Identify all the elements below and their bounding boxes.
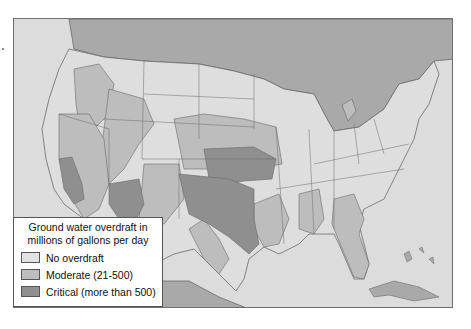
legend-label: Critical (more than 500) <box>46 286 156 298</box>
legend-item-no-overdraft: No overdraft <box>18 249 158 266</box>
legend-label: Moderate (21-500) <box>46 269 133 281</box>
swatch-moderate <box>21 269 40 280</box>
legend-label: No overdraft <box>46 252 104 264</box>
legend-item-critical: Critical (more than 500) <box>18 283 158 300</box>
swatch-no-overdraft <box>21 252 40 263</box>
legend-title: Ground water overdraft in millions of ga… <box>18 221 158 247</box>
legend-title-line1: Ground water overdraft in <box>18 221 158 234</box>
legend-title-line2: millions of gallons per day <box>18 234 158 247</box>
page-marker <box>2 48 4 50</box>
swatch-critical <box>21 286 40 297</box>
map-legend: Ground water overdraft in millions of ga… <box>13 217 163 307</box>
legend-item-moderate: Moderate (21-500) <box>18 266 158 283</box>
